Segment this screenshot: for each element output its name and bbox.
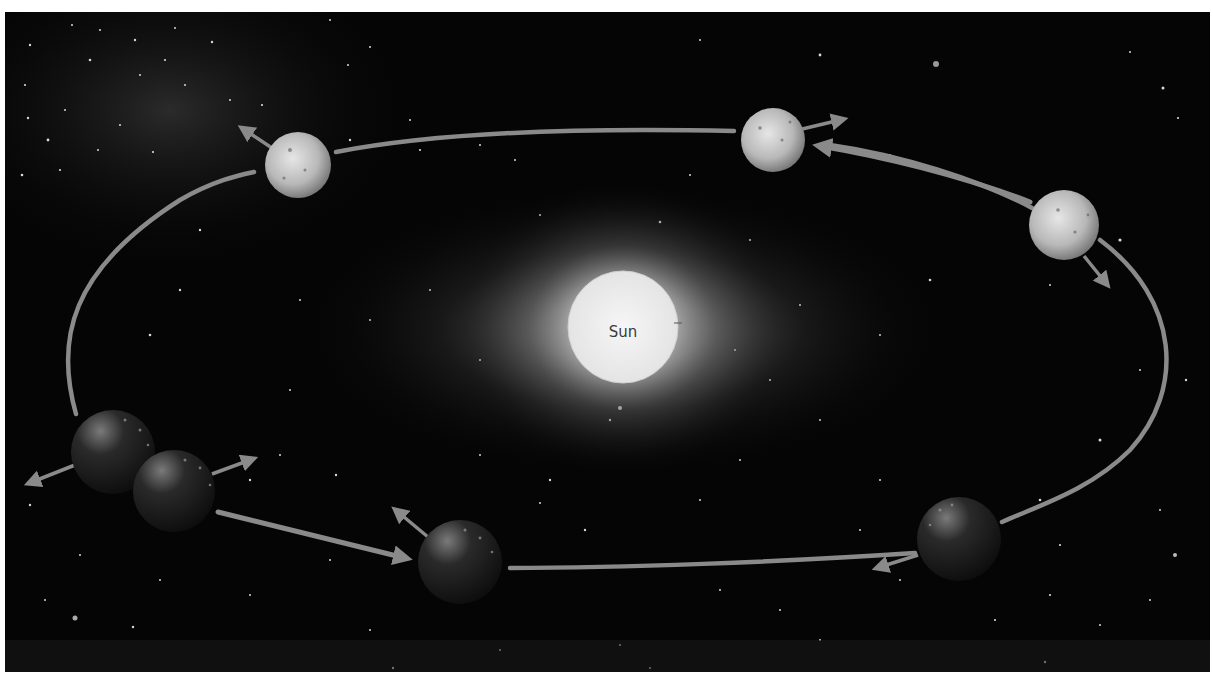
bottom-band [5,640,1210,672]
planet-p3 [1029,190,1099,260]
planet-p2 [741,108,805,172]
sun-label: Sun [609,323,638,341]
planet-p5 [133,450,215,532]
planet-p7 [917,497,1001,581]
space-diagram-panel: Sun [5,12,1210,672]
orbit-diagram [5,12,1210,672]
planet-p6 [418,520,502,604]
planet-p1 [265,132,331,198]
